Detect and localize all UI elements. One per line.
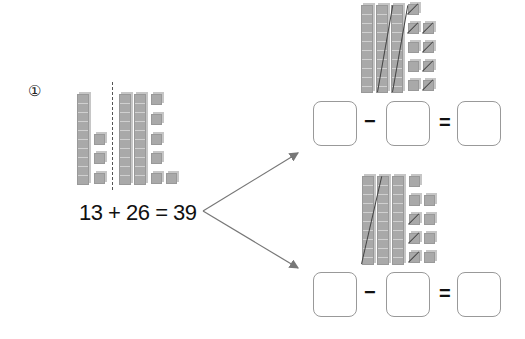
one-cube <box>409 176 420 187</box>
answer-box[interactable] <box>386 101 430 146</box>
answer-box[interactable] <box>313 272 357 317</box>
minus-sign: − <box>364 110 376 133</box>
answer-box[interactable] <box>313 101 357 146</box>
ten-rod-crossed <box>376 5 388 93</box>
answer-box[interactable] <box>457 101 501 146</box>
one-cube <box>424 233 435 244</box>
answer-box[interactable] <box>457 272 501 317</box>
equals-sign: = <box>439 282 451 305</box>
one-cube <box>408 42 419 53</box>
one-cube <box>408 80 419 91</box>
one-cube <box>408 61 419 72</box>
equals-sign: = <box>439 111 451 134</box>
ten-rod <box>361 5 373 93</box>
one-cube <box>424 195 435 206</box>
ten-rod <box>392 176 404 265</box>
minus-sign: − <box>364 281 376 304</box>
one-cube <box>424 252 435 263</box>
ten-rod-crossed <box>391 5 403 93</box>
one-cube <box>409 195 420 206</box>
one-cube <box>424 214 435 225</box>
answer-box[interactable] <box>386 272 430 317</box>
